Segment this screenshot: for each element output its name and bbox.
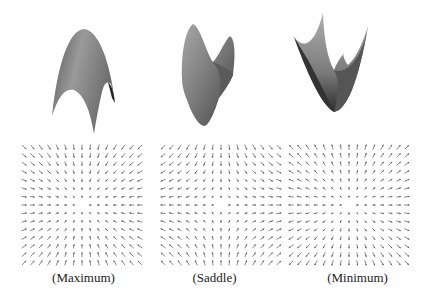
minimum-surface-plot — [286, 0, 429, 140]
panel-maximum: (Maximum) — [0, 0, 143, 306]
panel-saddle: (Saddle) — [143, 0, 286, 306]
caption-minimum: (Minimum) — [286, 270, 429, 286]
minimum-gradient-field — [287, 143, 412, 267]
maximum-surface-plot — [0, 0, 143, 140]
saddle-gradient-field — [159, 143, 284, 267]
caption-maximum: (Maximum) — [12, 270, 155, 286]
saddle-surface-plot — [143, 0, 286, 140]
maximum-gradient-field — [20, 143, 145, 267]
caption-saddle: (Saddle) — [143, 270, 286, 286]
panel-minimum: (Minimum) — [286, 0, 429, 306]
